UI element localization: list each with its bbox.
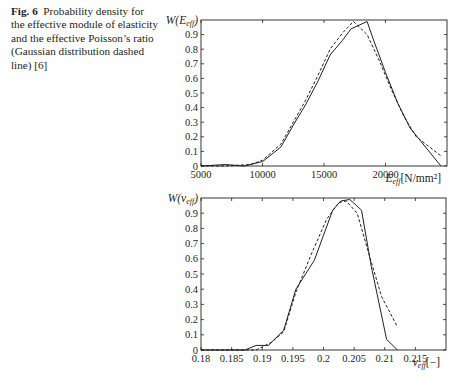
x-tick-label: 0.19: [253, 353, 271, 364]
x-axis-label: νeff[−]: [413, 356, 440, 370]
y-tick-label: 0.5: [185, 88, 198, 99]
x-tick-label: 15000: [311, 169, 337, 180]
y-axis-label: W(νeff): [168, 192, 199, 206]
density-curve: [201, 200, 398, 351]
y-tick-label: 0.7: [185, 58, 198, 69]
axes-frame: [201, 20, 447, 166]
y-tick-label: 0.2: [185, 131, 198, 142]
axes-frame: [201, 198, 446, 350]
x-tick-label: 0.18: [192, 353, 210, 364]
y-tick-label: 0.5: [185, 269, 198, 280]
y-tick-label: 0.4: [185, 102, 199, 113]
y-tick-label: 0.1: [185, 146, 198, 157]
y-tick-label: 0.6: [185, 73, 198, 84]
x-tick-label: 10000: [249, 169, 275, 180]
density-curve: [201, 22, 441, 167]
y-tick-label: 0.3: [185, 299, 198, 310]
figure-plots: 00.10.20.30.40.50.60.70.80.9500010000150…: [0, 0, 471, 389]
y-tick-label: 0.8: [185, 44, 198, 55]
y-tick-label: 0.3: [185, 117, 198, 128]
gaussian-curve: [201, 201, 398, 350]
y-tick-label: 0.1: [185, 329, 198, 340]
y-tick-label: 0.8: [185, 223, 198, 234]
gaussian-curve: [201, 22, 441, 167]
y-tick-label: 0.9: [185, 208, 198, 219]
x-tick-label: 0.195: [281, 353, 305, 364]
elasticity-plot: 00.10.20.30.40.50.60.70.80.9500010000150…: [166, 14, 447, 186]
x-tick-label: 0.185: [220, 353, 244, 364]
y-tick-label: 0.4: [185, 284, 199, 295]
y-axis-label: W(Eeff): [166, 14, 198, 28]
y-tick-label: 0.7: [185, 238, 198, 249]
x-tick-label: 0.21: [376, 353, 394, 364]
y-tick-label: 0.6: [185, 253, 198, 264]
x-tick-label: 5000: [191, 169, 212, 180]
y-tick-label: 0.2: [185, 314, 198, 325]
x-tick-label: 0.2: [317, 353, 330, 364]
y-tick-label: 0.9: [185, 29, 198, 40]
x-tick-label: 0.205: [342, 353, 366, 364]
poisson-plot: 00.10.20.30.40.50.60.70.80.90.180.1850.1…: [168, 192, 446, 370]
